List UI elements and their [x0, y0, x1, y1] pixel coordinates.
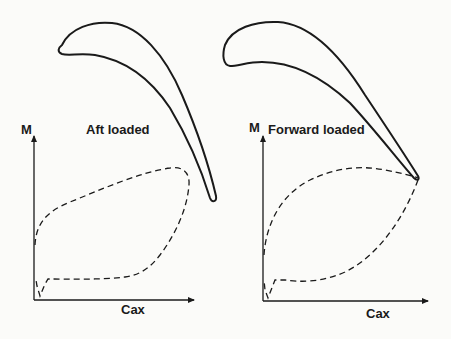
y-axis-label-aft: M — [21, 123, 32, 136]
diagram-graphics — [0, 0, 451, 339]
blade-profile-aft-loaded — [59, 23, 217, 202]
blade-profile-forward-loaded — [223, 22, 418, 180]
x-axis-label-forward: Cax — [366, 307, 390, 320]
panel-title-aft: Aft loaded — [86, 123, 150, 136]
y-axis-label-forward: M — [249, 121, 260, 134]
suction-curve-aft — [35, 168, 189, 296]
figure-canvas: M Aft loaded Cax M Forward loaded Cax — [0, 0, 451, 339]
panel-title-forward: Forward loaded — [268, 123, 365, 136]
x-axis-label-aft: Cax — [121, 303, 145, 316]
suction-curve-forward — [264, 168, 418, 255]
